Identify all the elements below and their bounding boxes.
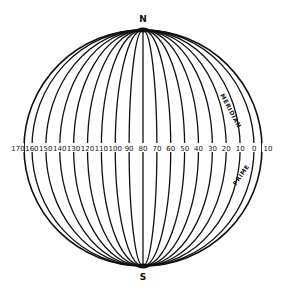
south-label: S: [140, 272, 146, 282]
longitude-labels: 1701601501401301201101009080706050403020…: [11, 143, 274, 153]
longitude-label: 120: [81, 145, 94, 153]
longitude-label: 130: [67, 145, 80, 153]
longitude-label: 50: [180, 145, 189, 153]
longitude-label: 110: [95, 145, 108, 153]
longitude-label: 10: [264, 145, 273, 153]
longitude-label: 170: [11, 145, 24, 153]
longitude-label: 10: [236, 145, 245, 153]
longitude-label: 80: [139, 145, 148, 153]
meridian-diagram: 1701601501401301201101009080706050403020…: [0, 0, 286, 292]
prime-label: PRIME: [231, 163, 250, 187]
longitude-label: 70: [152, 145, 161, 153]
globe-svg: 1701601501401301201101009080706050403020…: [0, 0, 286, 292]
longitude-label: 30: [208, 145, 217, 153]
north-label: N: [139, 14, 147, 24]
longitude-label: 160: [25, 145, 38, 153]
longitude-label: 140: [53, 145, 66, 153]
longitude-label: 150: [39, 145, 52, 153]
longitude-label: 0: [252, 145, 256, 153]
longitude-label: 60: [166, 145, 175, 153]
longitude-label: 100: [109, 145, 122, 153]
longitude-label: 90: [125, 145, 134, 153]
longitude-label: 40: [194, 145, 203, 153]
longitude-label: 20: [222, 145, 231, 153]
